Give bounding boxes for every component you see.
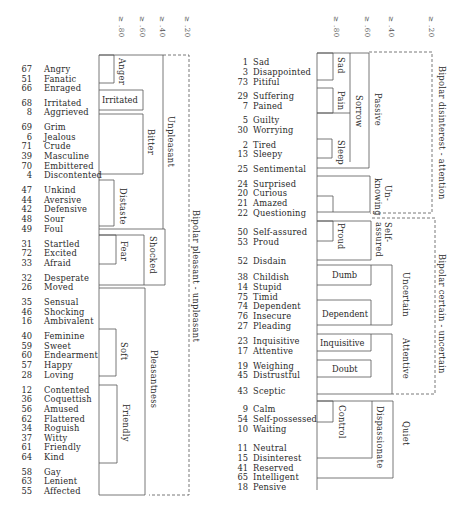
- item-number: 38: [232, 272, 248, 282]
- item-number: 64: [16, 452, 32, 462]
- item-number: 36: [16, 394, 32, 404]
- scale-label-80: ≥ .80: [117, 16, 125, 38]
- item-word: Ambivalent: [44, 316, 94, 326]
- item-word: Insecure: [253, 311, 291, 321]
- scale-label-20: ≥ .20: [427, 16, 435, 38]
- cluster-label-bitter: Bitter: [146, 129, 156, 155]
- cluster-label-dumb: Dumb: [332, 270, 357, 280]
- item-number: 72: [16, 248, 32, 258]
- item-word: Loving: [44, 370, 74, 380]
- item-number: 10: [232, 424, 248, 434]
- item-number: 60: [16, 350, 32, 360]
- item-word: Coquettish: [44, 394, 92, 404]
- item-word: Sceptic: [253, 386, 286, 396]
- item-word: Endearment: [44, 350, 98, 360]
- item-word: Suffering: [253, 91, 294, 101]
- item-word: Distrustful: [253, 370, 300, 380]
- cluster-label-inquisitive: Inquisitive: [320, 338, 364, 348]
- item-word: Pitiful: [253, 77, 280, 87]
- item-word: Attentive: [253, 346, 293, 356]
- item-number: 66: [16, 83, 32, 93]
- cluster-label-shocked: Shocked: [148, 236, 158, 274]
- item-number: 30: [232, 125, 248, 135]
- item-word: Questioning: [253, 208, 306, 218]
- item-word: Grim: [44, 122, 66, 132]
- item-word: Lenient: [44, 476, 77, 486]
- cluster-label-dispassionate: Dispassionate: [375, 406, 385, 468]
- item-word: Masculine: [44, 151, 89, 161]
- cluster-label-doubt: Doubt: [332, 364, 358, 374]
- item-word: Pained: [253, 101, 283, 111]
- item-word: Discontented: [44, 170, 102, 180]
- item-number: 21: [232, 198, 248, 208]
- item-number: 29: [232, 91, 248, 101]
- item-word: Roguish: [44, 423, 80, 433]
- item-word: Disdain: [253, 256, 286, 266]
- cluster-label-anger: Anger: [117, 58, 127, 85]
- cluster-label-pleasantness: Pleasantness: [149, 350, 159, 408]
- item-number: 74: [232, 301, 248, 311]
- cluster-label-unpleasant: Unpleasant: [166, 116, 176, 167]
- item-word: Excited: [44, 248, 77, 258]
- item-word: Curious: [253, 188, 287, 198]
- item-number: 22: [232, 208, 248, 218]
- cluster-label-dependent: Dependent: [322, 309, 368, 319]
- item-number: 47: [16, 185, 32, 195]
- cluster-label-soft: Soft: [119, 342, 129, 360]
- item-word: Intelligent: [253, 472, 299, 482]
- item-word: Self-possessed: [253, 414, 317, 424]
- item-word: Childish: [253, 272, 289, 282]
- item-word: Angry: [44, 64, 70, 74]
- item-word: Defensive: [44, 204, 87, 214]
- item-number: 56: [16, 404, 32, 414]
- item-word: Unkind: [44, 185, 76, 195]
- item-word: Friendly: [44, 442, 81, 452]
- item-word: Disappointed: [253, 67, 311, 77]
- item-number: 53: [232, 237, 248, 247]
- scale-label-60: ≥ .60: [138, 16, 146, 38]
- item-word: Worrying: [253, 125, 294, 135]
- item-number: 42: [16, 204, 32, 214]
- item-word: Feminine: [44, 331, 85, 341]
- item-word: Inquisitive: [253, 336, 300, 346]
- item-word: Enraged: [44, 83, 81, 93]
- item-word: Guilty: [253, 115, 280, 125]
- item-word: Calm: [253, 404, 276, 414]
- item-number: 7: [232, 101, 248, 111]
- item-number: 9: [232, 404, 248, 414]
- item-number: 52: [232, 256, 248, 266]
- item-number: 43: [232, 386, 248, 396]
- item-word: Disinterest: [253, 453, 301, 463]
- item-number: 13: [232, 149, 248, 159]
- item-word: Waiting: [253, 424, 286, 434]
- item-number: 39: [16, 151, 32, 161]
- item-number: 57: [16, 360, 32, 370]
- cluster-label-sad: Sad: [336, 57, 346, 74]
- item-number: 16: [16, 316, 32, 326]
- item-word: Pleading: [253, 321, 291, 331]
- item-number: 49: [16, 224, 32, 234]
- item-word: Neutral: [253, 443, 287, 453]
- item-number: 26: [16, 282, 32, 292]
- cluster-label-quiet: Quiet: [401, 421, 411, 446]
- item-word: Proud: [253, 237, 279, 247]
- item-number: 35: [16, 297, 32, 307]
- item-word: Afraid: [44, 258, 71, 268]
- scale-label-40: ≥ .40: [158, 16, 166, 38]
- item-number: 69: [16, 122, 32, 132]
- item-number: 54: [232, 414, 248, 424]
- cluster-label-fear: Fear: [119, 241, 129, 261]
- scale-label-60: ≥ .60: [363, 16, 371, 38]
- scale-label-80: ≥ .80: [332, 16, 340, 38]
- item-word: Crude: [44, 141, 71, 151]
- item-word: Kind: [44, 452, 64, 462]
- scale-label-40: ≥ .40: [387, 16, 395, 38]
- item-number: 17: [232, 346, 248, 356]
- cluster-label-unknowing-1: Un-: [383, 185, 393, 201]
- item-number: 23: [232, 336, 248, 346]
- item-number: 73: [232, 77, 248, 87]
- cluster-label-irritated: Irritated: [102, 95, 138, 105]
- cluster-label-friendly: Friendly: [121, 404, 131, 442]
- item-number: 40: [16, 331, 32, 341]
- item-number: 76: [232, 311, 248, 321]
